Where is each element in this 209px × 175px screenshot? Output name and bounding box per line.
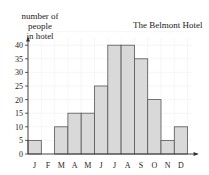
y-tick-label: 20 bbox=[15, 96, 23, 105]
y-tick-label: 30 bbox=[15, 68, 23, 77]
x-tick-label: O bbox=[151, 161, 157, 170]
bar-chart: 0510152025303540JFMAMJJASOND bbox=[0, 0, 209, 175]
x-tick-label: A bbox=[72, 161, 78, 170]
bar-J bbox=[95, 86, 108, 154]
y-tick-label: 40 bbox=[15, 41, 23, 50]
x-tick-label: S bbox=[139, 161, 143, 170]
y-tick-label: 35 bbox=[15, 55, 23, 64]
bar-J bbox=[28, 140, 41, 154]
x-tick-label: J bbox=[100, 161, 103, 170]
y-axis-arrow-icon bbox=[26, 37, 30, 42]
x-tick-label: M bbox=[84, 161, 91, 170]
bar-N bbox=[161, 140, 174, 154]
x-tick-label: N bbox=[165, 161, 171, 170]
y-tick-label: 10 bbox=[15, 123, 23, 132]
x-tick-label: A bbox=[125, 161, 131, 170]
x-tick-label: F bbox=[46, 161, 51, 170]
y-tick-label: 15 bbox=[15, 109, 23, 118]
x-axis-arrow-icon bbox=[194, 152, 199, 156]
bar-O bbox=[148, 100, 161, 154]
bar-J bbox=[108, 45, 121, 154]
bar-A bbox=[121, 45, 134, 154]
x-tick-label: J bbox=[113, 161, 116, 170]
bar-M bbox=[55, 127, 68, 154]
y-tick-label: 0 bbox=[19, 150, 23, 159]
x-tick-label: J bbox=[33, 161, 36, 170]
bar-D bbox=[174, 127, 187, 154]
bar-M bbox=[81, 113, 94, 154]
bar-S bbox=[134, 59, 147, 154]
x-tick-label: D bbox=[178, 161, 184, 170]
y-tick-label: 25 bbox=[15, 82, 23, 91]
y-tick-label: 5 bbox=[19, 136, 23, 145]
x-tick-label: M bbox=[58, 161, 65, 170]
bar-A bbox=[68, 113, 81, 154]
